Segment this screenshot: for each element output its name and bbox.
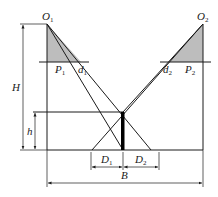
label-d2: d2 xyxy=(163,63,173,77)
label-D1: D1 xyxy=(100,153,113,167)
diagram-canvas: H h D1 D2 B O1 O2 P1 d1 d2 P2 xyxy=(0,0,218,197)
label-P2: P2 xyxy=(184,63,196,77)
label-H: H xyxy=(11,81,21,93)
label-d1: d1 xyxy=(78,63,88,77)
label-B: B xyxy=(121,169,128,181)
label-D2: D2 xyxy=(134,153,147,167)
label-P1: P1 xyxy=(54,63,66,77)
sight-line-o1-bottom xyxy=(47,24,123,150)
label-h: h xyxy=(27,125,33,137)
label-O1: O1 xyxy=(42,10,54,24)
label-O2: O2 xyxy=(197,10,209,24)
vertical-bar xyxy=(121,112,125,150)
sight-line-o1-top xyxy=(47,24,151,150)
